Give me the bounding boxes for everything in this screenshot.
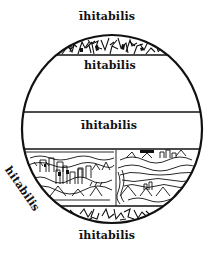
zone-map-diagram: īhitabilis hitabilis īhitabilis hitabili…	[0, 0, 214, 254]
label-north-uninhabitable: īhitabilis	[79, 11, 135, 23]
label-south-uninhabitable: īhitabilis	[79, 230, 135, 242]
label-torrid-uninhabitable: īhitabilis	[81, 120, 137, 132]
label-north-habitable: hitabilis	[84, 60, 136, 72]
north-frigid-zone	[0, 30, 214, 55]
